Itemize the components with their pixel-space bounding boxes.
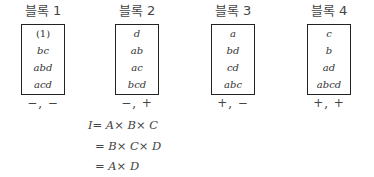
block-title: 블록 2 [107,0,167,22]
block-item: acd [22,76,64,93]
block-item: ac [116,59,158,76]
block-2: 블록 2 d ab ac bcd −, + [107,0,167,22]
block-box: c b ad abcd [307,24,351,95]
block-box: a bd cd abc [211,24,255,95]
defining-relation-line-2: = B× C× D [95,139,161,153]
block-item: ab [116,42,158,59]
block-box: d ab ac bcd [115,24,159,95]
block-box: (1) bc abd acd [21,24,65,95]
block-1: 블록 1 (1) bc abd acd −, − [13,0,73,22]
block-title: 블록 1 [13,0,73,22]
block-item: (1) [22,25,64,42]
block-signs: +, + [299,96,359,110]
block-item: abc [212,76,254,93]
block-item: abd [22,59,64,76]
block-item: b [308,42,350,59]
block-4: 블록 4 c b ad abcd +, + [299,0,359,22]
block-title: 블록 3 [203,0,263,22]
block-signs: −, − [13,96,73,110]
block-title: 블록 4 [299,0,359,22]
block-item: bcd [116,76,158,93]
block-signs: +, − [203,96,263,110]
defining-relation-line-3: = A× D [95,159,139,173]
block-3: 블록 3 a bd cd abc +, − [203,0,263,22]
block-item: a [212,25,254,42]
block-item: d [116,25,158,42]
block-signs: −, + [107,96,167,110]
block-item: ad [308,59,350,76]
block-item: bd [212,42,254,59]
block-item: bc [22,42,64,59]
block-item: cd [212,59,254,76]
block-item: abcd [308,76,350,93]
defining-relation-line-1: I= A× B× C [88,118,158,132]
block-item: c [308,25,350,42]
